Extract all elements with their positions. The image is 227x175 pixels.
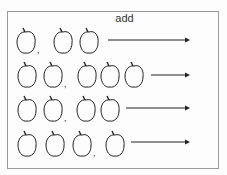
apple-icon [17, 28, 35, 53]
apple-icon [18, 96, 36, 121]
apple-row-1: , [17, 28, 190, 55]
comma-separator: , [37, 45, 40, 55]
apple-icon [80, 28, 98, 53]
apple-row-3: , [18, 96, 190, 123]
apple-icon [44, 62, 62, 87]
apple-icon [54, 28, 72, 53]
apple-icon [77, 96, 95, 121]
apple-icon [18, 62, 36, 87]
comma-separator: , [64, 79, 67, 89]
apple-row-4: , [18, 131, 190, 158]
apple-icon [73, 131, 91, 156]
apple-row-2: , [18, 62, 190, 89]
apple-icon [18, 131, 36, 156]
comma-separator: , [64, 113, 67, 123]
apple-icon [44, 96, 62, 121]
comma-separator: , [93, 148, 96, 158]
apple-icon [46, 131, 64, 156]
apple-icon [78, 62, 96, 87]
apple-icon [125, 62, 143, 87]
apple-icon [101, 62, 119, 87]
apple-icon [101, 96, 119, 121]
apple-icon [106, 131, 124, 156]
apple-addition-rows: ,,,, [0, 0, 227, 175]
